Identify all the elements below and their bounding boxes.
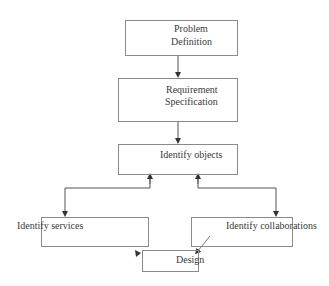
node-problem-definition-line1: Problem (174, 23, 208, 35)
arrow-objects-collaborations (198, 177, 276, 214)
node-problem-definition-line2: Definition (171, 36, 212, 48)
node-requirement-specification-line1: Requirement (166, 84, 218, 96)
arrow-services-to-design (135, 250, 141, 257)
node-identify-services-label: Identify services (17, 220, 83, 232)
node-identify-objects-label: Identify objects (160, 149, 222, 161)
node-requirement-specification-line2: Specification (165, 96, 218, 108)
node-identify-collaborations-label: Identify collaborations (226, 220, 317, 232)
arrow-objects-services (65, 177, 150, 214)
node-design-label: Design (176, 254, 204, 266)
